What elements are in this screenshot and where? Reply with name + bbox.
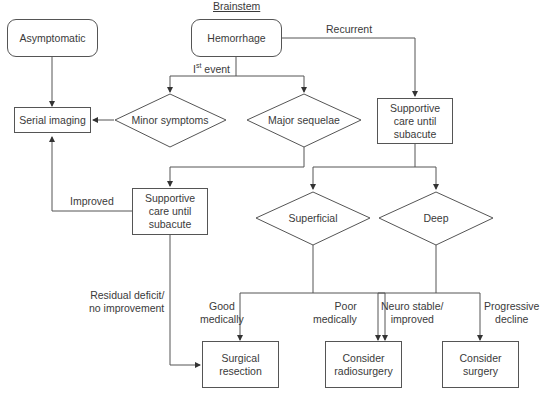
progressive-decline-label: Progressive decline [484,300,539,326]
superficial-label: Superficial [270,212,356,224]
surgical-resection-label: Surgical resection [209,352,272,378]
residual-deficit-label: Residual deficit/ no improvement [89,289,164,315]
major-sequelae-label: Major sequelae [256,114,352,126]
improved-label: Improved [70,195,114,208]
diagram-title: Brainstem [213,0,260,12]
consider-surgery-node: Consider surgery [442,341,519,388]
asymptomatic-label: Asymptomatic [20,32,86,45]
serial-imaging-node: Serial imaging [14,107,91,133]
brainstem-flowchart: Brainstem Asymptomatic Hemorrhage Serial… [0,0,545,398]
poor-medically-label: Poor medically [313,300,357,326]
asymptomatic-node: Asymptomatic [7,19,98,57]
supportive-care-right-label: Supportive care until subacute [382,102,448,141]
minor-symptoms-label: Minor symptoms [124,114,216,126]
serial-imaging-label: Serial imaging [19,114,86,127]
recurrent-label: Recurrent [326,23,372,36]
hemorrhage-node: Hemorrhage [191,19,282,57]
consider-radiosurgery-node: Consider radiosurgery [325,341,402,388]
first-event-label: Ist event [193,59,230,76]
hemorrhage-label: Hemorrhage [207,32,265,45]
good-medically-label: Good medically [200,300,244,326]
neuro-stable-label: Neuro stable/ improved [381,300,443,326]
surgical-resection-node: Surgical resection [202,341,279,388]
consider-surgery-label: Consider surgery [451,352,510,378]
consider-radiosurgery-label: Consider radiosurgery [328,352,399,378]
supportive-care-right-node: Supportive care until subacute [377,98,453,144]
supportive-care-left-label: Supportive care until subacute [137,192,203,231]
supportive-care-left-node: Supportive care until subacute [132,188,208,235]
deep-label: Deep [396,212,476,224]
